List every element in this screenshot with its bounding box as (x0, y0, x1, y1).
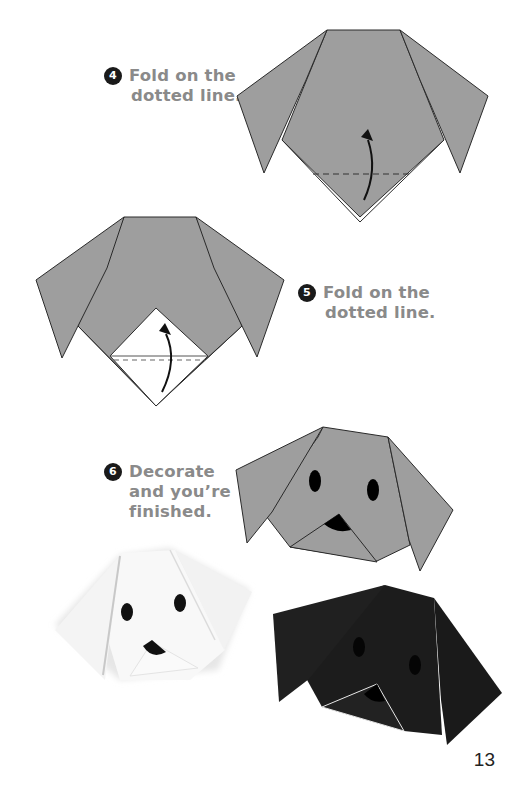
photo-black-dog (0, 0, 519, 786)
page-number: 13 (474, 749, 495, 771)
